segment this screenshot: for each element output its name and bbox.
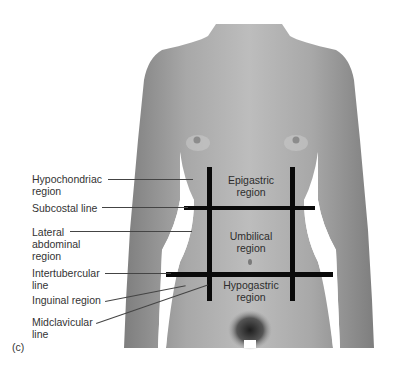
abdominal-regions-figure: Epigastric region Umbilical region Hypog… [0,0,398,371]
region-hypogastric: Hypogastric region [211,279,291,303]
subcostal-line-bar [184,206,315,210]
label-midclavicular-line: Midclavicular line [32,316,93,340]
label-inguinal-region: Inguinal region [32,294,101,306]
region-epigastric: Epigastric region [215,174,287,198]
leader-intertubercular [105,273,171,274]
label-hypochondriac-region: Hypochondriac region [32,173,102,197]
panel-label: (c) [12,341,24,353]
leader-subcostal [102,207,188,208]
leader-hypochondriac [108,179,193,180]
region-umbilical: Umbilical region [215,230,287,254]
intertubercular-line-bar [166,272,333,277]
label-intertubercular-line: Intertubercular line [32,267,100,291]
label-subcostal-line: Subcostal line [32,202,97,214]
leader-lateral-abdominal [70,231,192,232]
